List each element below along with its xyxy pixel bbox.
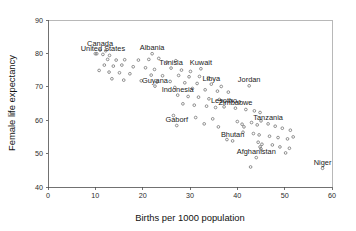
data-point — [108, 71, 111, 74]
data-point — [200, 67, 203, 70]
data-point — [227, 91, 230, 94]
data-point — [187, 95, 190, 98]
data-point — [286, 138, 289, 141]
data-point — [203, 123, 206, 126]
y-tick-label: 50 — [35, 149, 43, 158]
data-point — [248, 84, 251, 87]
data-point — [243, 126, 246, 129]
point-label-united-states: United States — [81, 44, 126, 53]
y-tick-label: 40 — [35, 183, 43, 192]
data-point — [175, 124, 178, 127]
point-label-niger: Niger — [314, 158, 332, 167]
data-point — [255, 156, 258, 159]
data-point — [292, 136, 295, 139]
data-point — [188, 75, 191, 78]
data-point — [180, 69, 183, 72]
data-point — [245, 108, 248, 111]
data-point — [98, 69, 101, 72]
data-point — [261, 143, 264, 146]
point-label-libya: Libya — [202, 74, 221, 83]
y-axis-title: Female life expectancy — [6, 55, 17, 151]
y-tick-label: 80 — [35, 49, 43, 58]
data-point — [211, 118, 214, 121]
data-point — [284, 152, 287, 155]
point-label-kuwait: Kuwait — [190, 58, 212, 67]
scatter-chart-figure: 4050607080900102030405060 CanadaUnited S… — [0, 0, 356, 231]
point-label-gaborf: Gaborf — [165, 115, 189, 124]
data-point — [154, 85, 157, 88]
data-point — [170, 67, 173, 70]
data-point — [196, 82, 199, 85]
data-point — [112, 65, 115, 68]
data-point — [132, 65, 135, 68]
data-point — [277, 136, 280, 139]
data-point — [271, 144, 274, 147]
data-point — [137, 59, 140, 62]
point-label-jordan: Jordan — [238, 75, 261, 84]
data-point — [236, 120, 239, 123]
data-point — [253, 110, 256, 113]
data-point — [129, 72, 132, 75]
point-label-indonesia: Indonesia — [162, 85, 195, 94]
data-point-labels: CanadaUnited StatesAlbaniaTunisiaKuwaitL… — [81, 39, 332, 166]
data-point — [189, 70, 192, 73]
data-point — [257, 141, 260, 144]
scatter-plot-canvas: 4050607080900102030405060 CanadaUnited S… — [0, 0, 356, 231]
data-point — [321, 167, 324, 170]
data-point — [108, 54, 111, 57]
data-point — [118, 71, 121, 74]
x-tick-label: 0 — [46, 191, 50, 200]
data-point — [177, 74, 180, 77]
data-point — [194, 116, 197, 119]
x-axis-title: Births per 1000 population — [135, 212, 244, 223]
data-point — [147, 58, 150, 61]
x-tick-label: 30 — [186, 191, 194, 200]
data-point — [214, 106, 217, 109]
data-point — [182, 102, 185, 105]
data-point — [231, 140, 234, 143]
data-point — [208, 97, 211, 100]
data-point — [217, 126, 220, 129]
data-point — [198, 75, 201, 78]
point-label-zimbabwe: Zimbabwe — [218, 98, 252, 107]
data-point — [274, 125, 277, 128]
x-tick-label: 60 — [328, 191, 336, 200]
data-point — [120, 64, 123, 67]
data-point — [102, 53, 105, 56]
data-point — [151, 52, 154, 55]
data-point — [256, 124, 259, 127]
data-point — [106, 58, 109, 61]
y-tick-label: 60 — [35, 116, 43, 125]
data-point — [193, 104, 196, 107]
data-point — [115, 59, 118, 62]
data-point — [169, 80, 172, 83]
x-tick-label: 20 — [139, 191, 147, 200]
data-point — [249, 166, 252, 169]
data-point — [176, 94, 179, 97]
data-point — [258, 134, 261, 137]
data-point — [144, 66, 147, 69]
x-tick-label: 40 — [233, 191, 241, 200]
point-label-tanzania: Tanzania — [253, 113, 283, 122]
data-point — [241, 123, 244, 126]
y-tick-label: 90 — [35, 16, 43, 25]
data-point — [103, 64, 106, 67]
data-point — [288, 147, 291, 150]
data-point — [122, 79, 125, 82]
data-point — [153, 68, 156, 71]
y-tick-label: 70 — [35, 82, 43, 91]
point-label-guyana: Guyana — [142, 76, 169, 85]
x-tick-label: 50 — [281, 191, 289, 200]
data-point — [216, 90, 219, 93]
data-point — [279, 146, 282, 149]
point-label-bhutan: Bhutan — [221, 130, 244, 139]
data-point — [281, 127, 284, 130]
data-point — [123, 58, 126, 61]
data-point — [252, 132, 255, 135]
data-point — [268, 135, 271, 138]
data-point — [267, 123, 270, 126]
data-point — [204, 88, 207, 91]
point-label-afghanistan: Afghanistan — [237, 147, 276, 156]
data-point — [205, 105, 208, 108]
point-label-albania: Albania — [140, 43, 166, 52]
